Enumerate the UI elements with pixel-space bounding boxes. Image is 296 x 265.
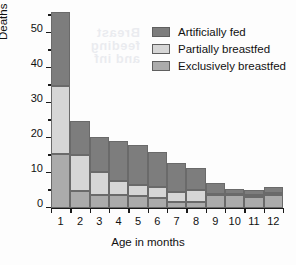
legend-label-artificially-fed: Artificially fed [178, 26, 246, 38]
bar-segment [51, 154, 70, 208]
y-axis-tick-label: 10 [31, 163, 43, 174]
x-axis-tick [51, 208, 52, 213]
bar-segment [109, 195, 128, 208]
chart-figure: Breastfeedingand inf Deaths per 1000 inf… [0, 0, 296, 265]
bar-segment [90, 137, 109, 172]
x-axis-tick-label: 8 [193, 216, 199, 227]
x-axis-tick [206, 208, 207, 213]
x-axis-tick [148, 208, 149, 213]
bar-segment [206, 183, 225, 194]
bar-segment [109, 141, 128, 181]
bar-segment [128, 145, 147, 185]
bar-segment [128, 185, 147, 197]
x-axis-tick-label: 11 [248, 216, 259, 227]
bar-segment [244, 197, 263, 208]
legend-item-exclusively-breastfed: Exclusively breastfed [152, 58, 286, 73]
x-axis-tick [244, 208, 245, 213]
bar-segment [70, 155, 89, 191]
bar-segment [244, 195, 263, 197]
x-axis-tick-label: 10 [229, 216, 241, 227]
bar-segment [70, 191, 89, 209]
y-axis-tick-label: 40 [31, 58, 43, 69]
x-axis-tick [264, 208, 265, 213]
bar-segment [167, 202, 186, 208]
x-axis-tick [128, 208, 129, 213]
y-axis-tick-label: 0 [37, 198, 43, 209]
bar-segment [167, 192, 186, 203]
bar-segment [90, 195, 109, 208]
table-row [109, 12, 128, 208]
legend-swatch-partially-breastfed [152, 44, 170, 54]
bar-segment [264, 193, 283, 195]
x-axis-tick-label: 4 [116, 216, 122, 227]
bar-segment [90, 172, 109, 195]
table-row [51, 12, 70, 208]
bar-segment [225, 189, 244, 194]
x-axis-tick [186, 208, 187, 213]
bar-segment [109, 181, 128, 195]
y-axis-tick-label: 30 [31, 93, 43, 104]
bar-segment [264, 195, 283, 208]
bar-segment [148, 187, 167, 198]
bar-segment [128, 196, 147, 208]
bar-segment [51, 86, 70, 154]
x-axis-tick [167, 208, 168, 213]
y-axis-tick-label: 50 [31, 23, 43, 34]
y-axis-title: Deaths per 1000 infants [0, 0, 9, 40]
table-row [70, 12, 89, 208]
bar-segment [148, 152, 167, 187]
bar-segment [51, 12, 70, 86]
x-axis-tick [283, 208, 284, 213]
x-axis-tick-label: 7 [174, 216, 180, 227]
x-axis-tick [225, 208, 226, 213]
bar-segment [70, 121, 89, 155]
x-axis-tick-label: 1 [58, 216, 64, 227]
bar-segment [167, 163, 186, 192]
x-axis-tick [90, 208, 91, 213]
bar-segment [186, 168, 205, 190]
bar-segment [206, 193, 225, 195]
x-axis-title: Age in months [0, 236, 296, 248]
bar-segment [148, 198, 167, 209]
y-axis-tick-label: 20 [31, 128, 43, 139]
x-axis-tick-label: 5 [135, 216, 141, 227]
legend-label-exclusively-breastfed: Exclusively breastfed [178, 60, 286, 72]
table-row [90, 12, 109, 208]
legend-item-partially-breastfed: Partially breastfed [152, 41, 286, 56]
bar-segment [186, 202, 205, 208]
x-axis-tick-label: 2 [77, 216, 83, 227]
legend-swatch-exclusively-breastfed [152, 61, 170, 71]
x-axis-tick [70, 208, 71, 213]
bar-segment [244, 190, 263, 195]
x-axis-tick-label: 9 [212, 216, 218, 227]
table-row [128, 12, 147, 208]
bar-segment [206, 195, 225, 208]
x-axis-tick-label: 6 [154, 216, 160, 227]
bar-segment [225, 195, 244, 208]
x-axis-tick-label: 12 [267, 216, 279, 227]
legend-item-artificially-fed: Artificially fed [152, 24, 286, 39]
legend-swatch-artificially-fed [152, 27, 170, 37]
legend-label-partially-breastfed: Partially breastfed [178, 43, 270, 55]
x-axis-tick-label: 3 [96, 216, 102, 227]
x-axis-tick [109, 208, 110, 213]
bar-segment [264, 187, 283, 193]
chart-legend: Artificially fed Partially breastfed Exc… [152, 24, 286, 75]
bar-segment [186, 190, 205, 202]
